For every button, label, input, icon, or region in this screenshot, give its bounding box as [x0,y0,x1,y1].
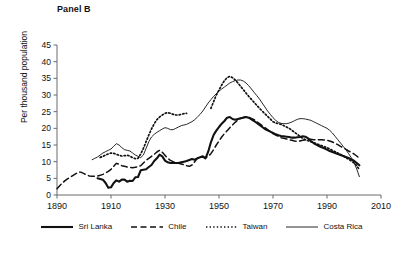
x-tick-label: 1890 [47,201,67,211]
legend-swatch-icon [40,223,74,231]
series-line-taiwan [100,113,186,159]
legend-item-costa-rica[interactable]: Costa Rica [285,222,362,231]
legend-swatch-icon [205,223,239,231]
legend-item-chile[interactable]: Chile [130,222,186,231]
legend-swatch-icon [130,223,164,231]
legend-swatch-icon [285,223,319,231]
x-tick-label: 1910 [101,201,121,211]
y-tick-label: 5 [46,173,51,183]
y-tick-label: 10 [42,157,52,167]
y-tick-label: 30 [42,90,52,100]
x-tick-label: 1970 [263,201,283,211]
x-tick-label: 1990 [317,201,337,211]
series-line-sri-lanka [98,117,360,188]
y-tick-label: 40 [42,57,52,67]
y-tick-label: 45 [42,40,52,50]
line-chart-plot: 0510152025303540451890191019301950197019… [0,0,403,253]
y-tick-label: 20 [42,123,52,133]
series-line-taiwan [211,76,360,169]
y-tick-label: 25 [42,107,52,117]
x-tick-label: 1950 [209,201,229,211]
legend-label: Taiwan [243,222,268,231]
legend-label: Chile [168,222,186,231]
legend-label: Costa Rica [323,222,362,231]
y-tick-label: 15 [42,140,52,150]
x-tick-label: 1930 [155,201,175,211]
y-tick-label: 35 [42,73,52,83]
legend-item-taiwan[interactable]: Taiwan [205,222,268,231]
y-tick-label: 0 [46,190,51,200]
chart-legend: Sri LankaChileTaiwanCosta Rica [0,222,403,231]
x-tick-label: 2010 [371,201,391,211]
series-line-costa-rica [92,80,359,177]
legend-item-sri-lanka[interactable]: Sri Lanka [40,222,112,231]
chart-figure: Panel B Per thousand population 05101520… [0,0,403,253]
legend-label: Sri Lanka [78,222,112,231]
